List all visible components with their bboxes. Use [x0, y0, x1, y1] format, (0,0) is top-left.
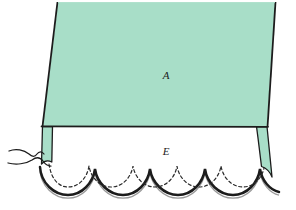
- facing-fill: [39, 126, 260, 195]
- panel-a-label: A: [162, 69, 170, 81]
- pattern-diagram: A E: [0, 0, 296, 210]
- scalloped-facing-panel: [39, 126, 260, 195]
- panel-e-label: E: [162, 145, 170, 157]
- main-panel: [43, 2, 276, 127]
- figure-canvas: A E: [0, 0, 296, 210]
- left-side-tab: [42, 127, 53, 165]
- thread-upper-strand: [9, 150, 44, 157]
- main-panel-fill: [43, 3, 275, 126]
